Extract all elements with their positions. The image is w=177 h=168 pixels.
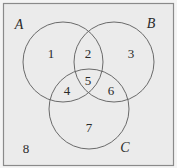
region-label-6: 6 [108,84,115,97]
region-label-7: 7 [86,121,93,134]
venn-diagram: A B C 1 2 3 4 5 6 7 8 [0,0,177,168]
region-label-2: 2 [85,47,92,60]
set-label-a: A [15,18,24,32]
region-label-3: 3 [128,47,135,60]
region-label-5: 5 [85,74,92,87]
region-label-8: 8 [23,142,30,155]
set-label-c: C [120,141,129,155]
region-label-4: 4 [64,84,71,97]
region-label-1: 1 [48,47,55,60]
set-label-b: B [147,17,156,31]
